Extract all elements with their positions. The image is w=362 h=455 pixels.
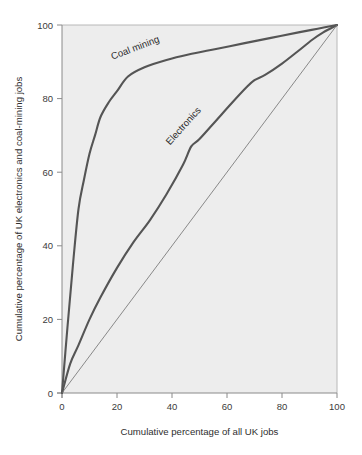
x-axis-title: Cumulative percentage of all UK jobs bbox=[121, 426, 279, 437]
y-tick-label: 100 bbox=[37, 20, 53, 31]
x-tick-label: 60 bbox=[222, 401, 233, 412]
y-axis-title: Cumulative percentage of UK electronics … bbox=[13, 77, 24, 342]
x-tick-label: 40 bbox=[167, 401, 178, 412]
x-tick-label: 0 bbox=[59, 401, 64, 412]
y-tick-label: 0 bbox=[48, 388, 53, 399]
y-tick-label: 40 bbox=[42, 240, 53, 251]
y-tick-label: 20 bbox=[42, 314, 53, 325]
y-tick-label: 80 bbox=[42, 93, 53, 104]
chart-canvas: 020406080100 020406080100 Cumulative per… bbox=[0, 0, 362, 455]
x-tick-label: 100 bbox=[329, 401, 345, 412]
lorenz-curve-chart: 020406080100 020406080100 Cumulative per… bbox=[0, 0, 362, 455]
x-tick-label: 20 bbox=[112, 401, 123, 412]
y-tick-label: 60 bbox=[42, 167, 53, 178]
x-tick-label: 80 bbox=[277, 401, 288, 412]
